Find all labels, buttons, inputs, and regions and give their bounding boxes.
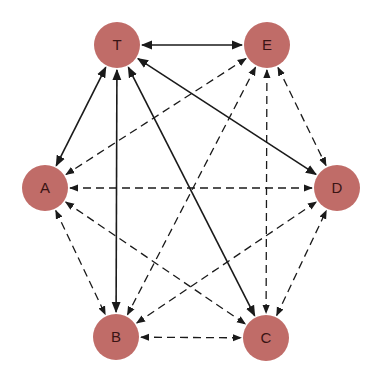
edge-b-c — [141, 337, 241, 338]
edge-b-d — [137, 202, 317, 323]
node-e: E — [244, 22, 290, 68]
edge-t-d — [138, 59, 316, 175]
node-label: C — [261, 329, 272, 346]
node-label: B — [111, 328, 121, 345]
node-label: D — [332, 179, 343, 196]
node-b: B — [93, 314, 139, 360]
node-a: A — [22, 165, 68, 211]
node-label: E — [262, 36, 272, 53]
node-c: C — [243, 315, 289, 361]
node-d: D — [314, 165, 360, 211]
node-t: T — [94, 22, 140, 68]
edge-t-a — [56, 67, 106, 165]
network-diagram: TEADBC — [0, 0, 383, 379]
edges-layer: TEADBC — [0, 0, 383, 379]
edge-e-c — [266, 70, 267, 313]
edge-c-d — [277, 211, 327, 316]
edge-e-d — [278, 67, 326, 165]
edge-a-c — [66, 202, 246, 324]
edge-e-a — [66, 59, 246, 175]
edges — [56, 45, 327, 338]
node-label: A — [40, 179, 50, 196]
node-label: T — [112, 36, 121, 53]
edge-a-b — [56, 211, 105, 315]
edge-t-b — [116, 70, 117, 312]
